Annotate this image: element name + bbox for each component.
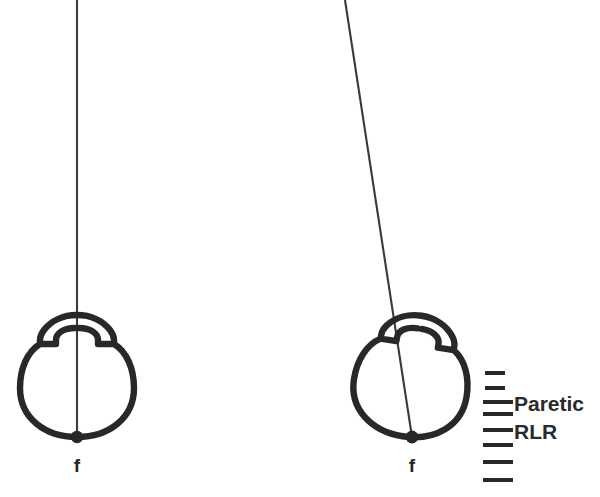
scale-label-paretic: Paretic — [514, 393, 584, 414]
fovea-dot-right — [406, 431, 419, 444]
fovea-label-left: f — [62, 456, 92, 475]
diagram-canvas — [0, 0, 600, 497]
fovea-label-right: f — [397, 456, 427, 475]
figure-root: f f Paretic RLR — [0, 0, 600, 497]
globe-outline-right — [346, 307, 478, 445]
fovea-dot-left — [71, 431, 83, 443]
muscle-scale-marks — [483, 373, 513, 480]
paretic-eye-panel — [345, 0, 478, 445]
scale-label-rlr: RLR — [514, 421, 557, 442]
normal-eye-panel — [20, 0, 134, 443]
eye-globe-right — [346, 307, 478, 445]
